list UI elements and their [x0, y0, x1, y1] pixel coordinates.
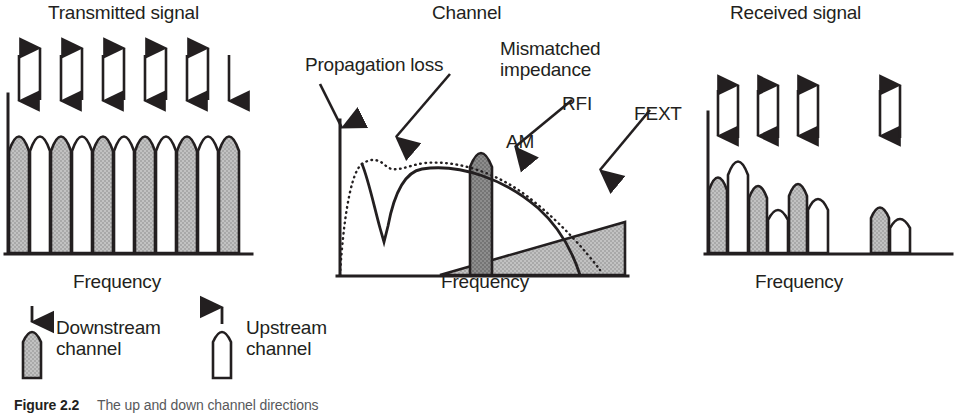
transmitted-signal-panel: Transmitted signal — [0, 0, 300, 300]
downstream-lobe — [93, 137, 113, 254]
figure-caption: Figure 2.2 The up and down channel direc… — [14, 397, 318, 413]
mismatched-impedance-line2: impedance — [500, 60, 600, 81]
received-subchannel-lobes — [709, 162, 910, 254]
upstream-lobe — [890, 219, 910, 253]
downstream-legend-line2: channel — [56, 339, 161, 360]
downstream-lobe — [51, 137, 71, 254]
downstream-legend-line1: Downstream — [56, 318, 161, 339]
fext-leader-arrow — [600, 110, 650, 170]
downstream-lobe — [219, 137, 239, 254]
received-x-axis-label: Frequency — [755, 271, 843, 293]
upstream-legend-label: Upstream channel — [246, 318, 327, 360]
upstream-lobe — [114, 137, 134, 254]
upstream-legend-line1: Upstream — [246, 318, 327, 339]
upstream-lobe — [808, 199, 828, 253]
upstream-lobe — [728, 162, 748, 254]
transmitted-arrows — [19, 48, 229, 101]
received-arrows — [718, 85, 900, 138]
downstream-lobe — [23, 332, 41, 378]
upstream-lobe — [72, 137, 92, 254]
downstream-lobe — [135, 137, 155, 254]
mismatched-impedance-leader-arrow — [396, 74, 450, 137]
transmitted-signal-plot — [0, 48, 300, 298]
figure-caption-number: Figure 2.2 — [14, 397, 79, 413]
channel-title: Channel — [432, 2, 501, 24]
upstream-lobe — [768, 210, 788, 253]
downstream-lobe — [709, 178, 727, 254]
upstream-lobe — [30, 137, 50, 254]
upstream-legend-icon — [200, 304, 246, 384]
upstream-lobe — [156, 137, 176, 254]
channel-panel: Channel Propagation loss Mismatched impe… — [300, 0, 680, 300]
downstream-legend-label: Downstream channel — [56, 318, 161, 360]
transmitted-x-axis-label: Frequency — [73, 271, 161, 293]
downstream-lobe — [177, 137, 197, 254]
received-signal-title: Received signal — [730, 2, 861, 24]
received-signal-plot — [680, 68, 960, 298]
propagation-loss-label: Propagation loss — [305, 55, 443, 76]
downstream-lobe — [9, 137, 29, 254]
channel-x-axis-label: Frequency — [441, 271, 529, 293]
received-signal-panel: Received signal Frequency — [680, 0, 960, 300]
upstream-lobe — [198, 137, 218, 254]
downstream-lobe — [789, 184, 807, 253]
upstream-legend-line2: channel — [246, 339, 327, 360]
mismatched-impedance-label: Mismatched impedance — [500, 39, 600, 80]
downstream-lobe — [749, 186, 767, 253]
figure-caption-text: The up and down channel directions — [97, 397, 319, 413]
upstream-lobe — [213, 332, 231, 378]
downstream-lobe — [871, 208, 889, 254]
rfi-leader-arrow — [515, 100, 572, 147]
downstream-legend-icon — [10, 304, 56, 384]
mismatched-impedance-line1: Mismatched — [500, 39, 600, 60]
transmitted-signal-title: Transmitted signal — [48, 2, 199, 24]
legend: Downstream channel Upstream channel — [0, 300, 420, 390]
transmitted-subchannel-lobes — [9, 137, 239, 254]
